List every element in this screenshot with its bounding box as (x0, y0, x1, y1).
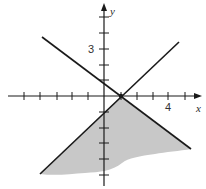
x-axis (8, 92, 202, 100)
y-tick-label-3: 3 (88, 43, 94, 55)
x-axis-arrow-icon (194, 93, 202, 99)
y-axis-arrow-icon (101, 3, 107, 11)
x-axis-label: x (195, 102, 201, 114)
graph: y x 4 3 (0, 0, 206, 189)
y-axis-label: y (109, 5, 115, 17)
x-tick-label-4: 4 (165, 101, 171, 113)
intersection-point (119, 94, 123, 98)
y-axis (99, 3, 109, 186)
